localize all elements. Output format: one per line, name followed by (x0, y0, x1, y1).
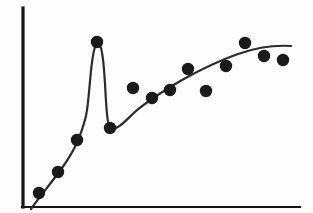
data-point (182, 63, 194, 75)
data-point (164, 84, 176, 96)
data-point (220, 60, 232, 72)
data-point (146, 92, 158, 104)
data-point (91, 36, 103, 48)
plot-background (0, 0, 313, 213)
data-point (104, 122, 116, 134)
data-point (71, 134, 83, 146)
data-point (239, 37, 251, 49)
data-point (127, 82, 139, 94)
data-point (200, 85, 212, 97)
scatter-plot (0, 0, 313, 213)
data-point (33, 187, 45, 199)
data-point (52, 166, 64, 178)
figure-root (0, 0, 313, 213)
data-point (277, 54, 289, 66)
data-point (258, 50, 270, 62)
